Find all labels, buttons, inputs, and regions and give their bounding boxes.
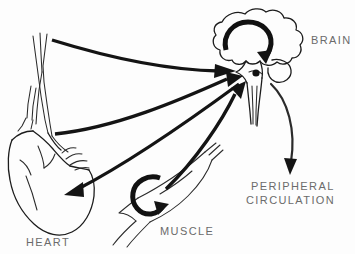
- peripheral-circulation-label-line1: PERIPHERAL: [251, 180, 335, 193]
- efferent-arrow-brain-to-heart: [64, 84, 239, 197]
- diagram-canvas: [0, 0, 355, 254]
- medullary-center-dot: [252, 69, 259, 76]
- peripheral-circulation-label-line2: CIRCULATION: [246, 194, 335, 207]
- afferent-arrow-vessels-to-brain: [52, 40, 236, 78]
- efferent-arrow-brain-to-peripheral: [271, 84, 297, 175]
- heart-organ-illustration: [8, 33, 94, 235]
- heart-label: HEART: [26, 236, 70, 249]
- brain-internal-loop-arrow: [225, 22, 272, 64]
- physiology-diagram: BRAIN HEART MUSCLE PERIPHERAL CIRCULATIO…: [0, 0, 355, 254]
- muscle-internal-loop-arrow: [133, 177, 169, 215]
- muscle-label: MUSCLE: [160, 225, 214, 238]
- brain-label: BRAIN: [311, 34, 352, 47]
